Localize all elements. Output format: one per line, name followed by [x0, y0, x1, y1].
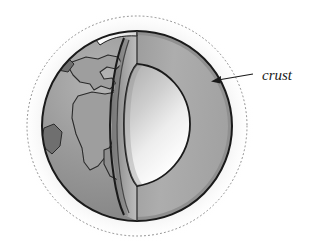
figure-canvas: crust	[0, 0, 318, 250]
earth-cutaway-diagram: crust	[0, 0, 318, 250]
crust-label: crust	[262, 67, 293, 83]
globe-icon	[42, 31, 232, 221]
